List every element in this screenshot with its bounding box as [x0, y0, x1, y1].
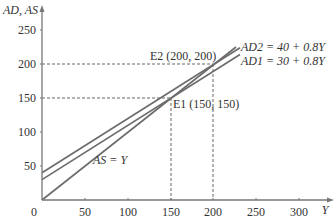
y-tick-200: 200 [18, 57, 36, 71]
x-tick-50: 50 [79, 205, 91, 219]
e2-label: E2 (200, 200) [150, 49, 216, 63]
as-label: AS = Y [92, 153, 128, 167]
x-tick-300: 300 [290, 205, 308, 219]
ad2-label: AD2 = 40 + 0.8Y [240, 40, 326, 54]
ad1-line [42, 55, 240, 180]
x-axis-title: Y [322, 203, 330, 217]
x-tick-100: 100 [119, 205, 137, 219]
y-tick-50: 50 [24, 159, 36, 173]
x-tick-150: 150 [162, 205, 180, 219]
as-line [42, 47, 236, 200]
y-axis-arrow-icon [40, 5, 45, 12]
x-tick-200: 200 [204, 205, 222, 219]
y-tick-250: 250 [18, 23, 36, 37]
y-tick-100: 100 [18, 125, 36, 139]
x-axis-arrow-icon [327, 198, 334, 203]
y-axis-title: AD, AS [2, 3, 38, 17]
y-tick-150: 150 [18, 91, 36, 105]
e1-label: E1 (150, 150) [173, 97, 239, 111]
origin-label: 0 [31, 205, 37, 219]
series-lines [42, 47, 240, 200]
ad1-label: AD1 = 30 + 0.8Y [240, 54, 326, 68]
x-tick-250: 250 [247, 205, 265, 219]
chart-canvas: 50 100 150 200 250 0 50 100 150 200 250 … [0, 0, 334, 222]
